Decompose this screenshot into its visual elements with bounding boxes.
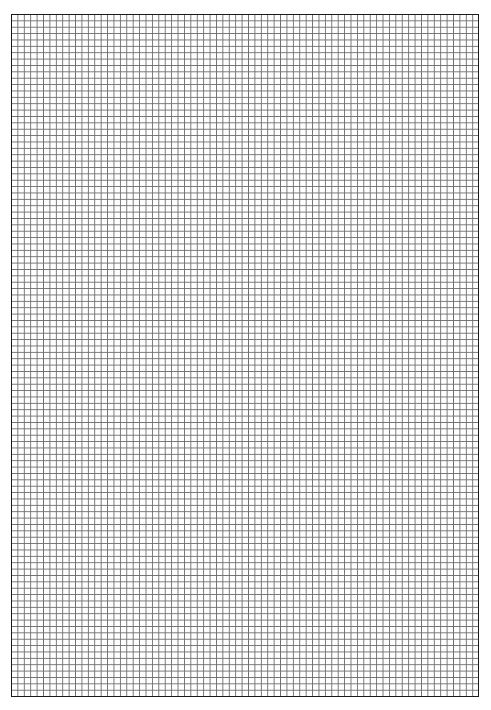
grid-paper-sheet xyxy=(11,14,479,697)
